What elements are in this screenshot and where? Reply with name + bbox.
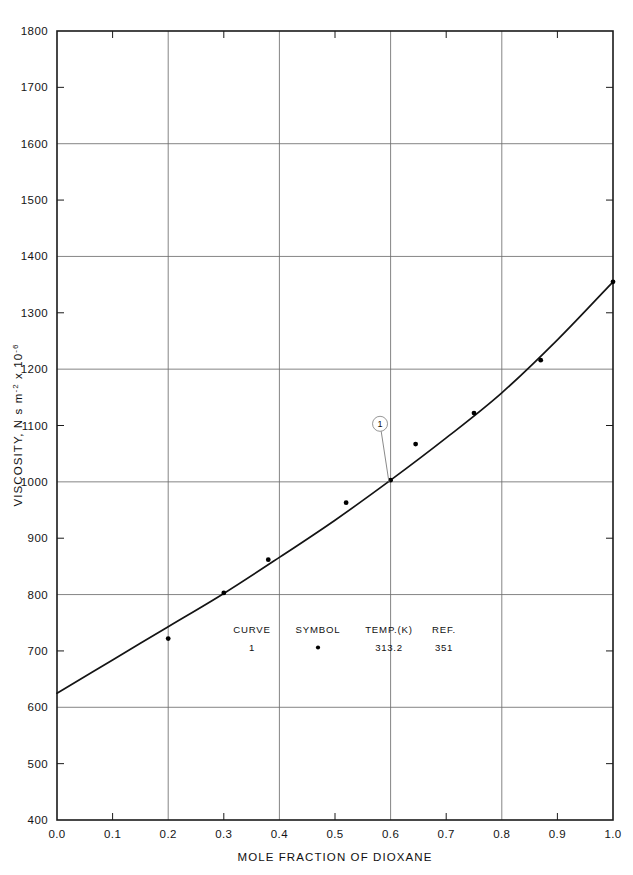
x-tick-label: 1.0 — [604, 828, 621, 840]
y-axis-title-main: VISCOSITY, N s m — [12, 393, 24, 507]
y-tick-label: 600 — [28, 701, 48, 713]
data-point-marker — [538, 358, 543, 363]
legend-cell-ref: 351 — [435, 642, 453, 653]
x-tick-label: 0.8 — [493, 828, 510, 840]
y-tick-label: 1000 — [21, 476, 48, 488]
legend-header-curve: CURVE — [233, 624, 271, 635]
y-tick-label: 400 — [28, 814, 48, 826]
y-tick-label: 500 — [28, 758, 48, 770]
y-axis-title-exp2: -6 — [11, 344, 20, 353]
data-point-marker — [166, 636, 171, 641]
figure-container: 4005006007008009001000110012001300140015… — [0, 0, 633, 875]
y-tick-label: 1100 — [22, 420, 48, 432]
viscosity-vs-mole-fraction-chart: 4005006007008009001000110012001300140015… — [0, 0, 633, 875]
data-point-marker — [413, 442, 418, 447]
y-tick-label: 1600 — [21, 138, 48, 150]
legend-symbol-dot-icon — [316, 645, 320, 649]
legend-cell-temp: 313.2 — [375, 642, 403, 653]
data-point-marker — [344, 500, 349, 505]
y-tick-label: 1300 — [21, 307, 48, 319]
x-tick-label: 0.5 — [326, 828, 343, 840]
y-tick-label: 800 — [28, 589, 48, 601]
legend-cell-curve: 1 — [249, 642, 255, 653]
x-tick-label: 0.6 — [382, 828, 399, 840]
legend-header-temp: TEMP.(K) — [365, 624, 413, 635]
x-tick-label: 0.9 — [549, 828, 566, 840]
y-tick-label: 1200 — [21, 363, 48, 375]
x-tick-label: 0.7 — [438, 828, 455, 840]
x-tick-label: 0.3 — [215, 828, 232, 840]
y-tick-label: 1800 — [21, 25, 48, 37]
y-axis-title: VISCOSITY, N s m-2 x 10-6 — [11, 344, 24, 507]
chart-background — [0, 0, 633, 875]
data-point-marker — [611, 279, 616, 284]
x-tick-label: 0.1 — [104, 828, 121, 840]
y-tick-label: 1400 — [21, 250, 48, 262]
y-axis-title-exp1: -2 — [11, 383, 20, 392]
legend-header-ref: REF. — [432, 624, 456, 635]
y-tick-label: 700 — [28, 645, 48, 657]
x-tick-label: 0.0 — [48, 828, 65, 840]
data-point-marker — [221, 590, 226, 595]
y-tick-label: 1500 — [21, 194, 48, 206]
data-point-marker — [266, 557, 271, 562]
callout-label: 1 — [378, 419, 383, 429]
y-tick-label: 900 — [28, 532, 48, 544]
y-axis-title-mid: x 10 — [12, 353, 24, 383]
x-tick-label: 0.4 — [271, 828, 288, 840]
data-point-marker — [472, 411, 477, 416]
y-axis-title-group: VISCOSITY, N s m-2 x 10-6 — [11, 344, 24, 507]
y-tick-label: 1700 — [21, 81, 48, 93]
x-tick-label: 0.2 — [160, 828, 177, 840]
x-axis-title: MOLE FRACTION OF DIOXANE — [237, 851, 432, 863]
legend-header-symbol: SYMBOL — [295, 624, 340, 635]
